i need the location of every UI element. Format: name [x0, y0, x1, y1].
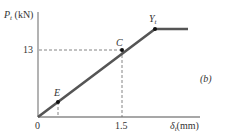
y-axis-unit: (kN) — [12, 9, 33, 20]
load-curve — [38, 29, 188, 117]
x-axis-label: δt(mm) — [170, 121, 199, 134]
x-tick-1-5: 1.5 — [115, 121, 128, 131]
point-yt-marker — [153, 27, 157, 31]
point-yt-label: Yt — [149, 14, 157, 27]
origin-label: 0 — [35, 121, 40, 131]
point-c-marker — [120, 48, 124, 52]
y-tick-13: 13 — [23, 45, 33, 55]
point-e-label: E — [54, 88, 60, 98]
panel-label: (b) — [200, 74, 212, 84]
x-axis-unit: (mm) — [177, 120, 199, 131]
point-yt-subscript: t — [155, 18, 157, 26]
load-deformation-chart — [0, 0, 225, 134]
y-axis-label: Pt (kN) — [4, 10, 33, 23]
point-c-label: C — [116, 38, 123, 48]
point-e-marker — [56, 100, 60, 104]
